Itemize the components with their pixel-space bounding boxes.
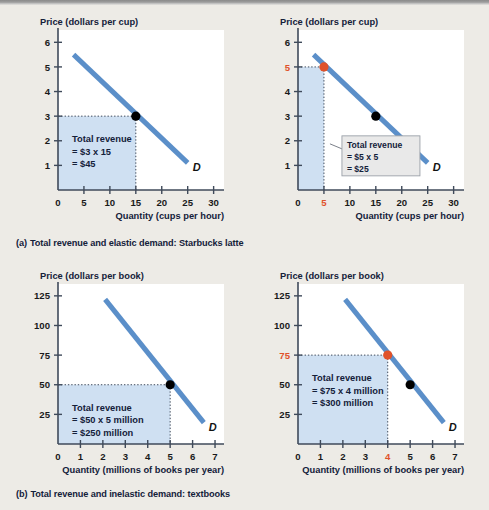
x-tick-label: 20: [396, 197, 407, 208]
x-axis-title: Quantity (millions of books per year): [302, 465, 464, 475]
total-revenue-line: = $3 x 15: [72, 147, 111, 157]
total-revenue-line: Total revenue: [347, 140, 402, 150]
y-tick-label: 6: [285, 37, 290, 48]
total-revenue-line: = $250 million: [72, 428, 134, 438]
figure-page: Price (dollars per cup)12345605101520253…: [0, 0, 489, 510]
total-revenue-line: = $50 x 5 million: [72, 415, 144, 425]
y-tick-label: 50: [39, 379, 50, 390]
demand-curve-label: D: [209, 421, 217, 433]
x-tick-label: 25: [422, 197, 433, 208]
reference-point[interactable]: [371, 112, 380, 121]
x-tick-label: 7: [452, 451, 457, 462]
x-tick-label: 6: [430, 451, 435, 462]
caption-b: (b)Total revenue and inelastic demand: t…: [16, 489, 230, 499]
x-axis-title: Quantity (cups per hour): [116, 211, 224, 221]
x-tick-label: 5: [167, 451, 173, 462]
x-tick-label: 10: [345, 197, 356, 208]
y-tick-label: 2: [45, 135, 50, 146]
y-tick-label: 75: [39, 350, 50, 361]
x-tick-label: 0: [55, 451, 60, 462]
x-tick-label: 25: [182, 197, 193, 208]
x-tick-label: 3: [123, 451, 128, 462]
marked-point[interactable]: [131, 112, 140, 121]
caption-b-letter: (b): [16, 489, 27, 499]
y-tick-label: 5: [45, 62, 51, 73]
chart-latte-elastic-5: Price (dollars per cup)12345605101520253…: [258, 14, 471, 226]
x-tick-label: 20: [156, 197, 167, 208]
y-tick-label: 4: [285, 86, 291, 97]
y-tick-label: 75: [279, 350, 290, 361]
x-tick-label: 0: [55, 197, 60, 208]
x-tick-label: 3: [363, 451, 368, 462]
top-divider-rule: [0, 0, 489, 5]
chart-latte-elastic-3: Price (dollars per cup)12345605101520253…: [18, 14, 231, 226]
reference-point[interactable]: [406, 380, 415, 389]
chart-panel-latte-elastic-3: Price (dollars per cup)12345605101520253…: [18, 14, 231, 226]
total-revenue-line: = $45: [72, 159, 96, 169]
x-tick-label: 0: [295, 197, 300, 208]
chart-textbooks-inelastic-50: Price (dollars per book)2550751001250123…: [18, 268, 231, 480]
caption-a-text: Total revenue and elastic demand: Starbu…: [30, 238, 243, 248]
chart-panel-textbooks-inelastic-75: Price (dollars per book)2550751001250123…: [258, 268, 471, 480]
marked-point[interactable]: [319, 62, 328, 71]
x-tick-label: 2: [100, 451, 105, 462]
total-revenue-line: Total revenue: [72, 134, 132, 144]
x-axis-title: Quantity (cups per hour): [356, 211, 464, 221]
demand-curve-label: D: [193, 161, 201, 173]
x-tick-label: 0: [295, 451, 300, 462]
x-tick-label: 5: [407, 451, 413, 462]
caption-a-letter: (a): [16, 238, 27, 248]
x-tick-label: 2: [340, 451, 345, 462]
marked-point[interactable]: [166, 380, 175, 389]
marked-point[interactable]: [383, 351, 392, 360]
y-tick-label: 125: [274, 290, 291, 301]
y-tick-label: 50: [279, 379, 290, 390]
y-tick-label: 6: [45, 37, 50, 48]
y-tick-label: 100: [274, 320, 290, 331]
x-tick-label: 30: [448, 197, 459, 208]
x-tick-label: 5: [321, 197, 327, 208]
chart-panel-latte-elastic-5: Price (dollars per cup)12345605101520253…: [258, 14, 471, 226]
total-revenue-line: = $300 million: [312, 398, 374, 408]
caption-b-text: Total revenue and inelastic demand: text…: [30, 489, 230, 499]
x-tick-label: 4: [145, 451, 151, 462]
x-tick-label: 1: [318, 451, 324, 462]
total-revenue-line: = $25: [347, 164, 369, 174]
y-tick-label: 100: [34, 320, 50, 331]
total-revenue-line: Total revenue: [72, 403, 132, 413]
y-axis-title: Price (dollars per book): [280, 271, 384, 281]
y-axis-title: Price (dollars per cup): [280, 17, 378, 27]
y-tick-label: 3: [285, 111, 290, 122]
y-tick-label: 3: [45, 111, 50, 122]
y-axis-title: Price (dollars per cup): [40, 17, 138, 27]
x-tick-label: 7: [212, 451, 217, 462]
x-tick-label: 6: [190, 451, 195, 462]
x-tick-label: 15: [130, 197, 141, 208]
y-tick-label: 25: [279, 409, 290, 420]
x-tick-label: 15: [370, 197, 381, 208]
total-revenue-area: [298, 67, 324, 190]
x-tick-label: 30: [208, 197, 219, 208]
total-revenue-line: = $5 x 5: [347, 152, 379, 162]
chart-panel-textbooks-inelastic-50: Price (dollars per book)2550751001250123…: [18, 268, 231, 480]
x-axis-title: Quantity (millions of books per year): [62, 465, 224, 475]
caption-a: (a)Total revenue and elastic demand: Sta…: [16, 238, 243, 248]
y-axis-title: Price (dollars per book): [40, 271, 144, 281]
y-tick-label: 25: [39, 409, 50, 420]
x-tick-label: 1: [78, 451, 84, 462]
total-revenue-line: Total revenue: [312, 373, 372, 383]
y-tick-label: 1: [285, 160, 291, 171]
demand-curve-label: D: [449, 421, 457, 433]
y-tick-label: 4: [45, 86, 51, 97]
y-tick-label: 2: [285, 135, 290, 146]
total-revenue-line: = $75 x 4 million: [312, 386, 384, 396]
x-tick-label: 5: [81, 197, 87, 208]
y-tick-label: 5: [285, 62, 291, 73]
demand-curve-label: D: [433, 161, 441, 173]
chart-textbooks-inelastic-75: Price (dollars per book)2550751001250123…: [258, 268, 471, 480]
x-tick-label: 10: [105, 197, 116, 208]
y-tick-label: 125: [34, 290, 51, 301]
x-tick-label: 4: [385, 451, 391, 462]
y-tick-label: 1: [45, 160, 51, 171]
